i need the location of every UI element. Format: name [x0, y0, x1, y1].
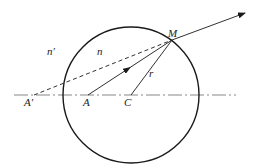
label-n-prime: n′: [47, 45, 56, 57]
incident-ray-mid-to-M: [130, 40, 172, 68]
label-C: C: [124, 96, 132, 108]
refracted-ray: [172, 13, 245, 40]
label-r: r: [149, 67, 154, 79]
refraction-diagram: n′ n M r A C A′: [0, 0, 257, 165]
incident-ray-A-to-mid: [88, 68, 130, 96]
label-A: A: [82, 96, 90, 108]
label-A-prime: A′: [23, 96, 34, 108]
label-M: M: [167, 27, 178, 39]
label-n: n: [97, 45, 103, 57]
